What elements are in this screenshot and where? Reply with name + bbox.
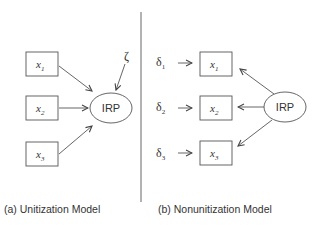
- disturbance-zeta: ζ: [124, 49, 129, 63]
- latent-label-irp: IRP: [102, 102, 120, 114]
- arrow-x3-to-irp: [59, 126, 92, 154]
- arrow-irp-to-x3: [238, 120, 272, 146]
- panel-a-unitization: x1 x2 x3 IRP ζ: [26, 49, 132, 166]
- caption-panel-a: (a) Unitization Model: [4, 203, 100, 215]
- latent-label-irp: IRP: [276, 101, 294, 113]
- indicator-label-x2: x2: [35, 102, 45, 117]
- arrow-x1-to-irp: [59, 66, 92, 91]
- panel-b-nonunitization: δ1 x1 δ2 x2 δ3 x3 IRP: [156, 52, 306, 165]
- indicator-label-x2: x2: [209, 102, 219, 117]
- indicator-label-x3: x3: [209, 147, 219, 162]
- diagram-canvas: x1 x2 x3 IRP ζ δ1 x1 δ2 x2 δ3 x3 IRP: [0, 0, 321, 230]
- indicator-label-x3: x3: [35, 148, 45, 163]
- error-delta2: δ2: [156, 100, 166, 116]
- indicator-label-x1: x1: [35, 58, 44, 73]
- arrow-zeta-to-irp: [116, 64, 125, 90]
- error-delta1: δ1: [156, 55, 166, 71]
- arrow-irp-to-x1: [240, 69, 274, 94]
- indicator-label-x1: x1: [209, 58, 218, 73]
- caption-panel-b: (b) Nonunitization Model: [158, 203, 272, 215]
- error-delta3: δ3: [156, 146, 166, 162]
